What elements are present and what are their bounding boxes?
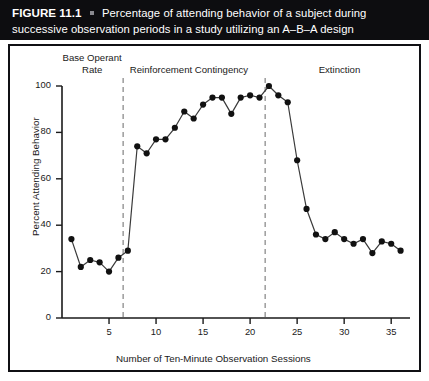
data-point — [350, 241, 356, 247]
plot-panel: 0204060801005101520253035Number of Ten-M… — [8, 44, 421, 372]
data-point — [294, 157, 300, 163]
x-tick-label: 20 — [230, 326, 270, 337]
figure-caption-bar: FIGURE 11.1 Percentage of attending beha… — [0, 0, 429, 40]
square-bullet-icon — [90, 11, 94, 15]
y-axis-title: Percent Attending Behavior — [30, 117, 41, 236]
data-point — [125, 248, 131, 254]
data-point — [106, 269, 112, 275]
data-point — [379, 238, 385, 244]
data-point — [115, 255, 121, 261]
data-point — [87, 257, 93, 263]
data-point — [341, 236, 347, 242]
figure-container: FIGURE 11.1 Percentage of attending beha… — [0, 0, 429, 381]
x-tick-label: 5 — [89, 326, 129, 337]
data-point — [303, 206, 309, 212]
data-point — [285, 99, 291, 105]
x-tick-label: 10 — [136, 326, 176, 337]
phase-label-baseline-line1: Base Operant — [47, 52, 137, 64]
data-point — [332, 229, 338, 235]
data-point — [97, 259, 103, 265]
data-point — [256, 95, 262, 101]
data-point — [313, 231, 319, 237]
data-point — [219, 95, 225, 101]
data-point — [247, 92, 253, 98]
data-point — [181, 108, 187, 114]
data-point — [266, 83, 272, 89]
data-point — [68, 236, 74, 242]
data-point — [191, 115, 197, 121]
data-point — [360, 236, 366, 242]
caption-line-2: successive observation periods in a stud… — [12, 22, 417, 38]
phase-label-extinction: Extinction — [294, 64, 384, 76]
data-point — [162, 136, 168, 142]
data-point — [275, 92, 281, 98]
data-point — [78, 264, 84, 270]
data-point — [388, 241, 394, 247]
caption-text-first: Percentage of attending behavior of a su… — [102, 7, 367, 19]
data-point — [144, 150, 150, 156]
data-point — [200, 101, 206, 107]
data-point — [134, 143, 140, 149]
y-tick-label: 100 — [10, 79, 51, 90]
chart-canvas — [10, 46, 419, 370]
x-tick-label: 35 — [371, 326, 411, 337]
caption-line-1: FIGURE 11.1 Percentage of attending beha… — [12, 5, 417, 22]
x-tick-label: 15 — [183, 326, 223, 337]
x-tick-label: 25 — [277, 326, 317, 337]
x-tick-label: 30 — [324, 326, 364, 337]
data-point — [369, 250, 375, 256]
data-point — [172, 125, 178, 131]
data-point — [228, 111, 234, 117]
data-point — [153, 136, 159, 142]
figure-number: FIGURE 11.1 — [12, 6, 82, 19]
data-point — [397, 248, 403, 254]
x-axis-title: Number of Ten-Minute Observation Session… — [116, 353, 311, 364]
y-tick-label: 20 — [10, 265, 51, 276]
y-tick-label: 0 — [10, 311, 51, 322]
data-point — [238, 95, 244, 101]
phase-label-reinforcement: Reinforcement Contingency — [109, 64, 269, 76]
data-point — [209, 95, 215, 101]
data-point — [322, 236, 328, 242]
